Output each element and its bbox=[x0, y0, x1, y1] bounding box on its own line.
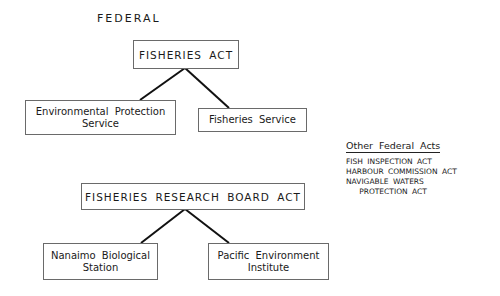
environmental-protection-service-box: Environmental Protection Service bbox=[25, 100, 176, 135]
other-federal-acts-legend: Other Federal Acts FISH INSPECTION ACT H… bbox=[346, 134, 457, 197]
fisheries-service-box: Fisheries Service bbox=[198, 108, 307, 132]
legend-item: HARBOUR COMMISSION ACT bbox=[346, 167, 457, 177]
legend-item: PROTECTION ACT bbox=[346, 187, 457, 197]
fisheries-act-box: FISHERIES ACT bbox=[133, 40, 239, 69]
fisheries-research-board-act-box: FISHERIES RESEARCH BOARD ACT bbox=[81, 183, 305, 210]
legend-item: FISH INSPECTION ACT bbox=[346, 157, 457, 167]
pacific-environment-institute-box: Pacific Environment Institute bbox=[208, 243, 329, 280]
org-diagram: FEDERAL FISHERIES ACT Environmental Prot… bbox=[0, 0, 500, 296]
legend-heading: Other Federal Acts bbox=[346, 140, 440, 153]
legend-item: NAVIGABLE WATERS bbox=[346, 177, 457, 187]
nanaimo-biological-station-box: Nanaimo Biological Station bbox=[43, 243, 158, 280]
legend-list: FISH INSPECTION ACT HARBOUR COMMISSION A… bbox=[346, 157, 457, 197]
